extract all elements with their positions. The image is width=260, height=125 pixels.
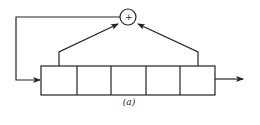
tap-line-left: [59, 24, 118, 66]
feedback-line: [16, 17, 120, 80]
plus-symbol: +: [125, 12, 133, 22]
shift-register: [41, 66, 215, 95]
figure-caption: (a): [118, 97, 140, 107]
tap-line-right: [138, 24, 198, 66]
